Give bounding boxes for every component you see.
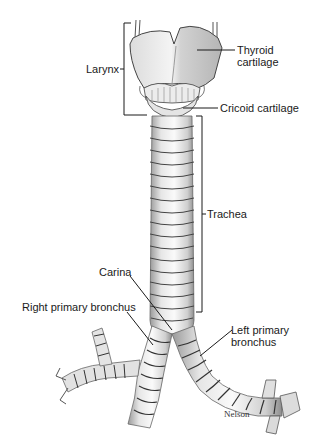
right-primary-bronchus-label: Right primary bronchus: [22, 301, 136, 313]
thyroid-cartilage-label-line1: Thyroid: [237, 44, 274, 56]
larynx-label: Larynx: [86, 63, 119, 75]
carina-label: Carina: [99, 266, 131, 278]
cricoid-cartilage-drawing: [140, 83, 205, 118]
left-primary-bronchus-label-line1: Left primary: [231, 324, 289, 336]
left-primary-bronchus-label-line2: bronchus: [231, 336, 276, 348]
left-bronchus-leader: [200, 330, 232, 356]
artist-signature: Nelson: [224, 409, 250, 419]
cricoid-cartilage-label: Cricoid cartilage: [220, 102, 299, 114]
thyroid-cartilage-drawing: [130, 26, 222, 88]
right-bronchus-drawing: [56, 326, 172, 428]
right-bronchus-leader: [127, 312, 153, 345]
trachea-drawing: [150, 116, 194, 334]
trachea-bracket: [196, 116, 202, 312]
trachea-label: Trachea: [207, 208, 247, 220]
thyroid-cartilage-label-line2: cartilage: [237, 56, 279, 68]
anatomy-diagram: Larynx Thyroid cartilage Cricoid cartila…: [0, 0, 319, 443]
